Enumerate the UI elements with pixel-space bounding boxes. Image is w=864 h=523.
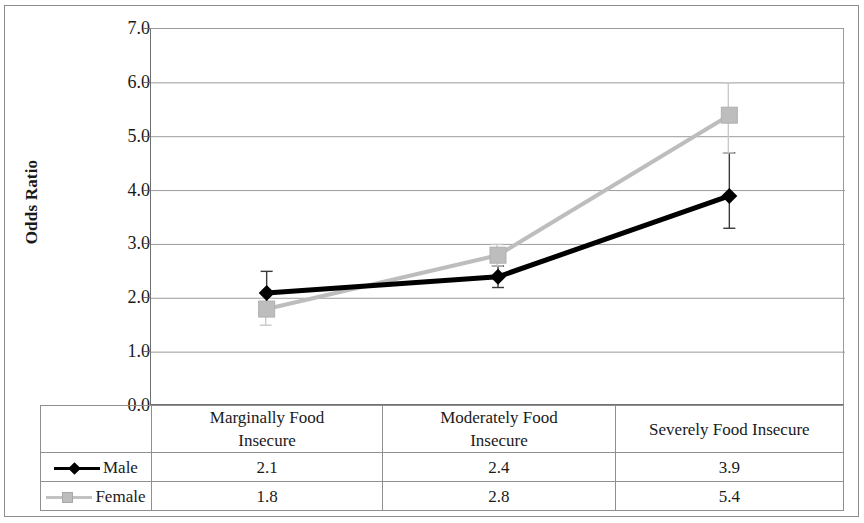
data-point-marker-female-3 bbox=[721, 107, 737, 123]
table-column-header-2: Moderately Food Insecure bbox=[383, 406, 615, 453]
cell-female-marginally: 1.8 bbox=[151, 482, 382, 511]
y-axis-tick-mark bbox=[143, 82, 150, 83]
legend-entry-male: Male bbox=[41, 453, 152, 482]
y-axis-tick-mark bbox=[143, 190, 150, 191]
category-label-1-line1: Marginally Food bbox=[152, 406, 382, 429]
cell-female-moderately: 2.8 bbox=[383, 482, 615, 511]
y-axis-title: Odds Ratio bbox=[22, 122, 42, 282]
y-axis-tick-mark bbox=[143, 136, 150, 137]
legend-entry-female: Female bbox=[41, 482, 152, 511]
figure-container: Odds Ratio 0.01.02.03.04.05.06.07.0 Marg… bbox=[0, 0, 864, 523]
y-axis-tick-mark bbox=[143, 351, 150, 352]
legend-label-male: Male bbox=[103, 458, 138, 477]
cell-male-severely: 3.9 bbox=[615, 453, 843, 482]
data-point-marker-female-2 bbox=[490, 247, 506, 263]
y-axis-tick-mark bbox=[143, 28, 150, 29]
table-column-header-3: Severely Food Insecure bbox=[615, 406, 843, 453]
category-label-2-line1: Moderately Food bbox=[383, 406, 614, 429]
cell-male-marginally: 2.1 bbox=[151, 453, 382, 482]
table-row-female: Female 1.8 2.8 5.4 bbox=[41, 482, 844, 511]
y-axis-tick-mark bbox=[143, 297, 150, 298]
chart-series-layer bbox=[151, 29, 845, 406]
table-header-row: Marginally Food Insecure Moderately Food… bbox=[41, 406, 844, 453]
y-axis-tick-mark bbox=[143, 243, 150, 244]
category-label-2-line2: Insecure bbox=[383, 429, 614, 452]
cell-male-moderately: 2.4 bbox=[383, 453, 615, 482]
category-label-3-line1: Severely Food Insecure bbox=[616, 418, 843, 441]
gridlines-group bbox=[151, 83, 845, 352]
cell-female-severely: 5.4 bbox=[615, 482, 843, 511]
table-column-header-1: Marginally Food Insecure bbox=[151, 406, 382, 453]
data-table: Marginally Food Insecure Moderately Food… bbox=[40, 405, 844, 511]
plot-area bbox=[150, 28, 844, 405]
table-corner-blank bbox=[41, 406, 152, 453]
legend-swatch-male bbox=[54, 461, 100, 475]
y-axis-tick-group: 0.01.02.03.04.05.06.07.0 bbox=[90, 28, 150, 405]
legend-label-female: Female bbox=[95, 487, 145, 506]
data-point-marker-female-1 bbox=[259, 301, 275, 317]
table-row-male: Male 2.1 2.4 3.9 bbox=[41, 453, 844, 482]
diamond-marker-icon bbox=[68, 462, 81, 475]
data-point-marker-male-2 bbox=[490, 269, 506, 285]
category-label-1-line2: Insecure bbox=[152, 429, 382, 452]
legend-swatch-female bbox=[46, 490, 92, 504]
square-marker-icon bbox=[62, 492, 73, 503]
